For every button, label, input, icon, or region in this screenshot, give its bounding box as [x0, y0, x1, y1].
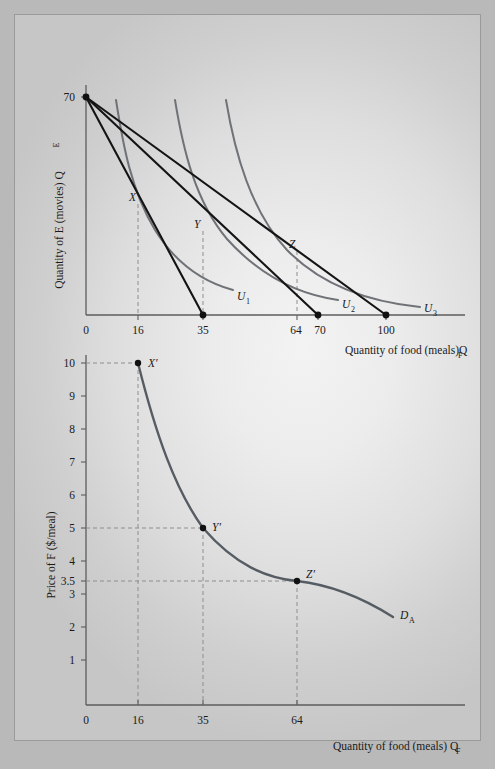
demand-curve-da: [138, 363, 393, 617]
demand-curve-label-sub: A: [409, 616, 415, 625]
bottom-xlabel-35: 35: [197, 714, 209, 726]
bottom-ylabel-9: 9: [69, 390, 75, 402]
bottom-ylabel-8: 8: [69, 423, 75, 435]
demand-point-dot-z-prime: [294, 578, 300, 584]
bottom-x-axis-title-sub: F: [456, 747, 461, 756]
bottom-ylabel-6: 6: [69, 489, 75, 501]
bottom-xlabel-16: 16: [132, 714, 144, 726]
bottom-y-axis-title: Price of F ($/meal): [45, 511, 58, 598]
bottom-ylabel-7: 7: [69, 456, 75, 468]
demand-point-dot-y-prime: [200, 525, 206, 531]
demand-curve-label: D: [399, 609, 409, 621]
demand-svg: 10 9 8 7 6 5 4 3.5 3 2 1 0 16 35 64: [15, 15, 482, 742]
bottom-ylabel-10: 10: [64, 357, 76, 369]
bottom-xlabel-64: 64: [291, 714, 303, 726]
demand-point-label-x-prime: X′: [147, 357, 158, 369]
bottom-ylabel-5: 5: [69, 522, 75, 534]
bottom-x-axis-title: Quantity of food (meals) Q: [333, 740, 459, 753]
demand-point-label-z-prime: Z′: [306, 568, 315, 580]
demand-curve-chart: 10 9 8 7 6 5 4 3.5 3 2 1 0 16 35 64: [15, 15, 480, 740]
bottom-ylabel-1: 1: [69, 654, 75, 666]
bottom-ylabel-3: 3: [69, 588, 75, 600]
bottom-ylabel-4: 4: [69, 555, 75, 567]
bottom-xlabel-0: 0: [83, 714, 89, 726]
bottom-ylabel-2: 2: [69, 621, 75, 633]
demand-point-dot-x-prime: [135, 360, 141, 366]
figure-panel: 70 0 16 35 64 70 100 Quantity of food (m…: [14, 14, 481, 741]
demand-point-label-y-prime: Y′: [212, 521, 221, 533]
bottom-ylabel-3p5: 3.5: [61, 575, 76, 587]
